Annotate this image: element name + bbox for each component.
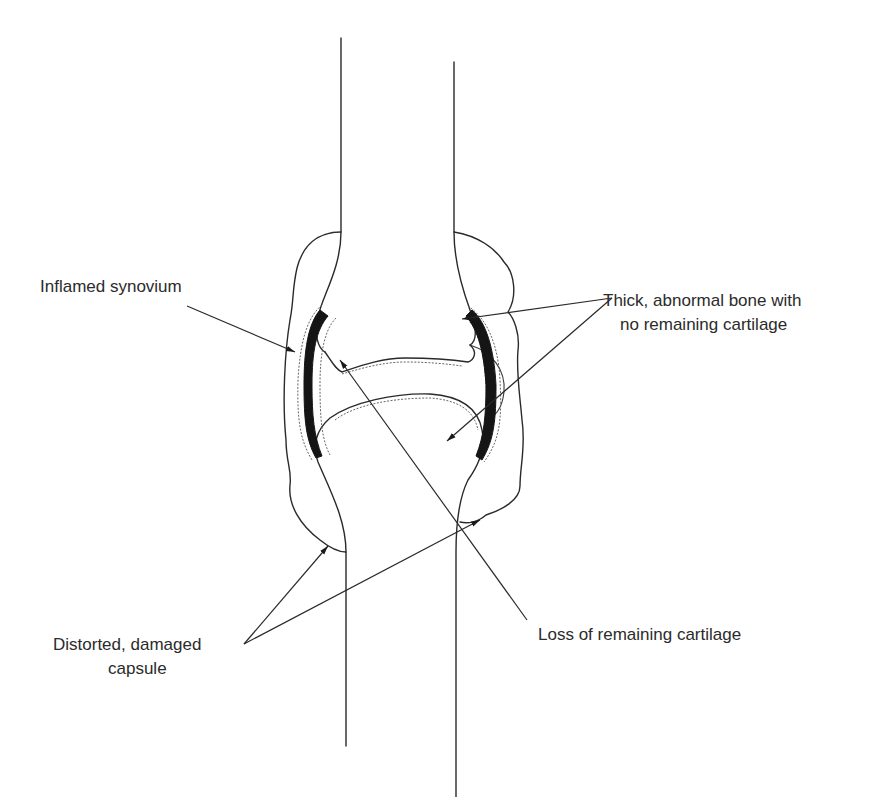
joint-diagram: Inflamed synovium Thick, abnormal bone w…: [0, 0, 875, 797]
leader-lines: [187, 298, 612, 644]
synovium-right: [466, 306, 501, 462]
label-loss-cartilage: Loss of remaining cartilage: [538, 625, 741, 644]
upper-bone: [316, 38, 475, 374]
label-thick-bone-line1: Thick, abnormal bone with: [603, 291, 801, 310]
lower-bone: [315, 394, 483, 797]
label-capsule-line1: Distorted, damaged: [53, 635, 201, 654]
labels: Inflamed synovium Thick, abnormal bone w…: [40, 277, 801, 678]
label-thick-bone-line2: no remaining cartilage: [620, 315, 787, 334]
label-inflamed-synovium: Inflamed synovium: [40, 277, 182, 296]
label-capsule-line2: capsule: [108, 659, 167, 678]
